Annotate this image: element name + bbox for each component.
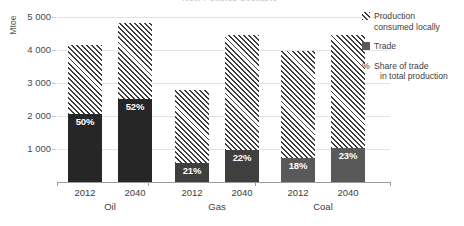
legend-item-share-of-trade: % Share of trade in total production xyxy=(362,61,464,82)
bar-data-label: 52% xyxy=(118,101,152,112)
bar-segment-production-consumed-locally xyxy=(118,23,152,100)
x-axis-tick-label: 2040 xyxy=(331,187,365,198)
x-axis-line xyxy=(57,182,390,183)
y-axis-tick-label: 4 000 xyxy=(5,44,51,55)
bar-segment-production-consumed-locally xyxy=(331,35,365,148)
x-axis-separator-tick xyxy=(390,182,391,186)
y-axis-tick-label: 1 000 xyxy=(5,143,51,154)
y-axis-tick-mark xyxy=(52,116,56,117)
hatched-swatch-icon xyxy=(362,12,370,20)
bar-oil-2040: 52% xyxy=(118,23,152,182)
y-axis-tick-mark xyxy=(52,149,56,150)
x-axis-separator-tick xyxy=(148,182,149,186)
x-axis-tick-label: 2012 xyxy=(281,187,315,198)
x-axis-tick-label: 2012 xyxy=(68,187,102,198)
bar-gas-2040: 22% xyxy=(225,35,259,182)
bar-segment-production-consumed-locally xyxy=(68,45,102,113)
y-axis-tick-mark xyxy=(52,17,56,18)
x-axis-separator-tick xyxy=(255,182,256,186)
solid-swatch-icon xyxy=(362,42,370,50)
bar-segment-production-consumed-locally xyxy=(175,90,209,163)
y-axis-tick-label: 5 000 xyxy=(5,11,51,22)
legend-label-production: Production consumed locally xyxy=(374,11,440,32)
x-axis-tick-label: 2040 xyxy=(118,187,152,198)
bar-data-label: 50% xyxy=(68,116,102,127)
legend-item-trade: Trade xyxy=(362,41,464,52)
x-axis-group-label-coal: Coal xyxy=(281,201,365,212)
bar-oil-2012: 50% xyxy=(68,45,102,182)
legend-label-share-line1: Share of trade xyxy=(374,61,428,71)
x-axis-separator-tick xyxy=(57,182,58,186)
legend-label-production-line2: consumed locally xyxy=(374,22,440,32)
x-axis-tick-label: 2012 xyxy=(175,187,209,198)
legend-label-share-line2: in total production xyxy=(374,71,448,81)
y-axis-tick-mark xyxy=(52,50,56,51)
bar-chart: New Policies Scenario Mtoe 50%52%21%22%1… xyxy=(0,0,464,226)
bar-coal-2012: 18% xyxy=(281,51,315,182)
bar-gas-2012: 21% xyxy=(175,90,209,182)
bar-data-label: 23% xyxy=(331,150,365,161)
legend-label-production-line1: Production xyxy=(374,11,415,21)
y-axis-tick-label: 3 000 xyxy=(5,77,51,88)
legend-label-trade: Trade xyxy=(374,41,396,52)
bar-data-label: 18% xyxy=(281,160,315,171)
plot-area: 50%52%21%22%18%23% xyxy=(57,17,390,182)
gridline xyxy=(57,17,390,18)
bar-coal-2040: 23% xyxy=(331,35,365,182)
x-axis-tick-label: 2040 xyxy=(225,187,259,198)
chart-title: New Policies Scenario xyxy=(120,0,340,1)
legend-item-production-consumed-locally: Production consumed locally xyxy=(362,11,464,32)
bar-data-label: 21% xyxy=(175,165,209,176)
y-axis-tick-label: 2 000 xyxy=(5,110,51,121)
y-axis-tick-mark xyxy=(52,83,56,84)
percent-symbol-icon: % xyxy=(362,61,370,72)
x-axis-group-label-gas: Gas xyxy=(175,201,259,212)
bar-data-label: 22% xyxy=(225,152,259,163)
bar-segment-production-consumed-locally xyxy=(281,51,315,158)
x-axis-group-label-oil: Oil xyxy=(68,201,152,212)
chart-legend: Production consumed locally Trade % Shar… xyxy=(362,11,464,82)
legend-label-share: Share of trade in total production xyxy=(374,61,448,82)
bar-segment-production-consumed-locally xyxy=(225,35,259,150)
